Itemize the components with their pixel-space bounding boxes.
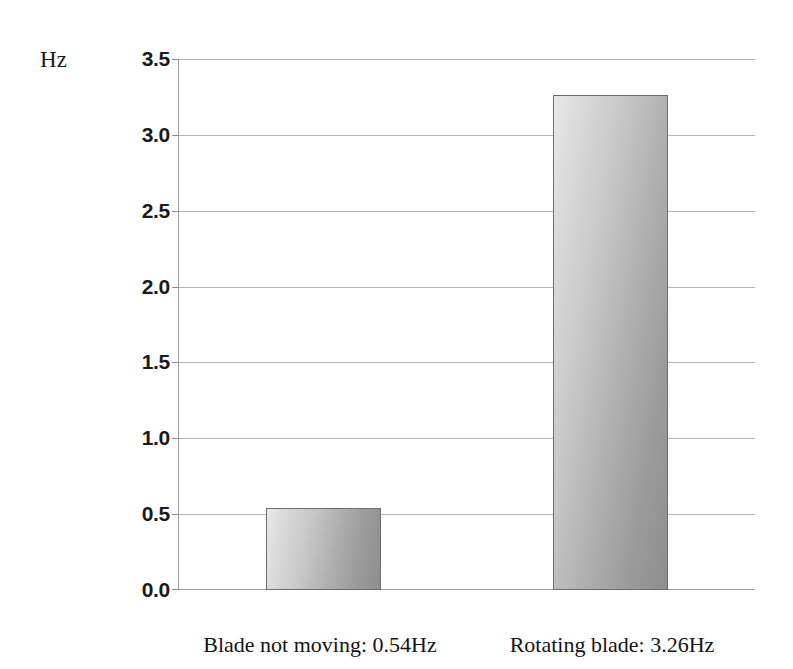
bar-blade-not-moving[interactable]	[266, 508, 381, 590]
y-tickmark-1-5	[172, 362, 179, 363]
chart-page: Hz 0.0 0.5 1.0 1.5 2.0 2.5 3.0 3.5	[0, 0, 793, 669]
gridline-2-5	[178, 211, 755, 212]
gridline-baseline-0-0	[178, 589, 755, 590]
y-tickmark-2-5	[172, 211, 179, 212]
x-category-label-rotating-blade: Rotating blade: 3.26Hz	[462, 632, 762, 658]
y-tick-label-4: 2.0	[106, 275, 170, 299]
y-tick-label-3: 1.5	[106, 350, 170, 374]
x-category-label-blade-not-moving: Blade not moving: 0.54Hz	[170, 632, 470, 658]
y-tick-label-0: 0.0	[106, 578, 170, 602]
gridline-1-0	[178, 438, 755, 439]
y-tick-label-7: 3.5	[106, 47, 170, 71]
y-tick-label-5: 2.5	[106, 199, 170, 223]
y-axis-tick-labels: 0.0 0.5 1.0 1.5 2.0 2.5 3.0 3.5	[98, 59, 170, 590]
y-tickmark-1-0	[172, 438, 179, 439]
y-axis-line	[178, 59, 179, 590]
y-tickmark-0-0	[172, 589, 179, 590]
gridline-3-5	[178, 59, 755, 60]
y-tick-label-6: 3.0	[106, 123, 170, 147]
y-axis-unit-label: Hz	[40, 47, 67, 73]
gridline-0-5	[178, 514, 755, 515]
y-tickmark-0-5	[172, 514, 179, 515]
y-tickmark-2-0	[172, 287, 179, 288]
y-tick-label-1: 0.5	[106, 502, 170, 526]
y-tickmark-3-0	[172, 135, 179, 136]
gridline-1-5	[178, 362, 755, 363]
gridline-2-0	[178, 287, 755, 288]
y-tickmark-3-5	[172, 59, 179, 60]
plot-area	[178, 59, 755, 590]
bar-rotating-blade[interactable]	[553, 95, 668, 590]
y-tick-label-2: 1.0	[106, 426, 170, 450]
gridline-3-0	[178, 135, 755, 136]
